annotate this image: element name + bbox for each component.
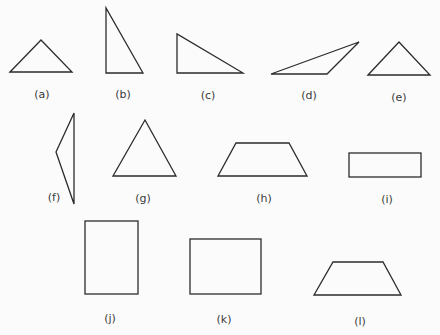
label-f: (f)	[48, 191, 60, 204]
label-c: (c)	[201, 89, 216, 102]
shape-k-rectangle	[190, 239, 261, 294]
shape-b-right-triangle	[106, 8, 143, 73]
label-a: (a)	[34, 88, 49, 101]
label-e: (e)	[391, 91, 406, 104]
label-l: (l)	[354, 315, 366, 328]
shape-l-trapezoid	[314, 262, 401, 295]
shape-d-obtuse-triangle	[271, 42, 359, 74]
label-g: (g)	[135, 192, 151, 205]
shape-i-rectangle	[349, 153, 421, 177]
label-j: (j)	[104, 312, 116, 325]
label-h: (h)	[256, 192, 272, 205]
shape-j-rectangle	[85, 221, 138, 294]
label-d: (d)	[301, 89, 317, 102]
label-k: (k)	[217, 313, 232, 326]
label-b: (b)	[115, 88, 131, 101]
shape-e-triangle	[368, 42, 430, 75]
shape-h-trapezoid	[218, 143, 307, 176]
shape-c-right-triangle	[177, 34, 243, 73]
geometry-figure: (a) (b) (c) (d) (e) (f) (g) (h) (i) (j) …	[0, 0, 440, 335]
shape-g-equilateral-triangle	[113, 120, 176, 176]
label-i: (i)	[381, 193, 393, 206]
shape-a-triangle	[10, 40, 72, 72]
shapes-svg: (a) (b) (c) (d) (e) (f) (g) (h) (i) (j) …	[0, 0, 440, 335]
